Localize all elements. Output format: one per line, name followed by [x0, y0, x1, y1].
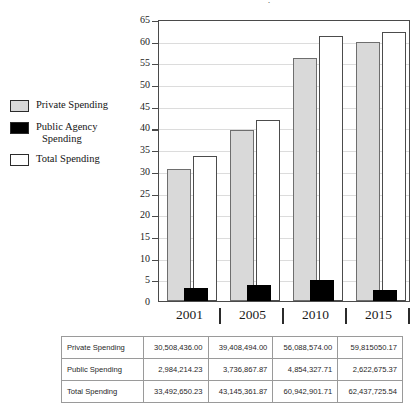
table-cell: 62,437,725.54 [338, 381, 403, 403]
table-row-header: Total Spending [62, 381, 144, 403]
y-tick-mark [152, 173, 159, 174]
y-tick-label: 25 [140, 188, 150, 199]
bar-private-spending [167, 169, 191, 301]
table-cell: 60,942,901.71 [273, 381, 338, 403]
bar-public-agency-spending [310, 280, 334, 301]
y-tick-label: 45 [140, 101, 150, 112]
bar-public-agency-spending [247, 285, 271, 301]
x-axis-label-2010: 2010 [284, 307, 347, 323]
x-axis-separator [408, 308, 410, 324]
x-axis-label-2001: 2001 [158, 307, 221, 323]
y-tick-label: 0 [145, 296, 150, 307]
bar-series-container [159, 21, 409, 301]
plot-wrapper: 05101520253035404550556065 2001200520102… [0, 0, 420, 330]
data-table: Private Spending30,508,436.0039,408,494.… [61, 336, 403, 403]
y-tick-label: 30 [140, 166, 150, 177]
table-cell: 43,145,361.87 [208, 381, 273, 403]
table-cell: 2,622,675.37 [338, 359, 403, 381]
table-cell: 33,492,650.23 [143, 381, 208, 403]
table-cell: 3,736,867.87 [208, 359, 273, 381]
bar-group [285, 21, 348, 301]
table-row: Private Spending30,508,436.0039,408,494.… [62, 337, 403, 359]
bar-total-spending [319, 36, 343, 301]
y-tick-mark [152, 281, 159, 282]
x-axis-label-2005: 2005 [221, 307, 284, 323]
x-axis-label-2015: 2015 [347, 307, 410, 323]
table-cell: 56,088,574.00 [273, 337, 338, 359]
x-axis-labels: 2001200520102015 [158, 305, 410, 330]
y-tick-mark [152, 43, 159, 44]
y-tick-label: 35 [140, 144, 150, 155]
plot-area: 05101520253035404550556065 [158, 20, 410, 302]
chart-page: · Private Spending Public Agency Spendin… [0, 0, 420, 415]
y-tick-mark [152, 64, 159, 65]
table-row: Total Spending33,492,650.2343,145,361.87… [62, 381, 403, 403]
bar-private-spending [293, 58, 317, 301]
bar-group [222, 21, 285, 301]
bar-group [348, 21, 411, 301]
y-tick-label: 15 [140, 231, 150, 242]
bar-total-spending [193, 156, 217, 301]
table-cell: 59,815050.17 [338, 337, 403, 359]
y-tick-label: 10 [140, 253, 150, 264]
y-tick-mark [152, 129, 159, 130]
y-tick-mark [152, 238, 159, 239]
bar-private-spending [356, 42, 380, 301]
table-cell: 39,408,494.00 [208, 337, 273, 359]
y-tick-mark [152, 260, 159, 261]
bar-public-agency-spending [184, 288, 208, 301]
y-tick-label: 5 [145, 274, 150, 285]
table-cell: 2,984,214.23 [143, 359, 208, 381]
y-tick-mark [152, 216, 159, 217]
bar-private-spending [230, 130, 254, 301]
y-tick-mark [152, 151, 159, 152]
bar-public-agency-spending [373, 290, 397, 301]
y-tick-label: 65 [140, 14, 150, 25]
bar-total-spending [382, 32, 406, 301]
table-row: Public Spending2,984,214.233,736,867.874… [62, 359, 403, 381]
table-cell: 4,854,327.71 [273, 359, 338, 381]
y-tick-mark [152, 108, 159, 109]
y-tick-label: 50 [140, 79, 150, 90]
y-tick-mark [152, 195, 159, 196]
table-cell: 30,508,436.00 [143, 337, 208, 359]
y-tick-label: 20 [140, 209, 150, 220]
bar-group [159, 21, 222, 301]
y-tick-mark [152, 21, 159, 22]
table-row-header: Public Spending [62, 359, 144, 381]
bar-total-spending [256, 120, 280, 301]
table-row-header: Private Spending [62, 337, 144, 359]
y-tick-label: 40 [140, 122, 150, 133]
y-tick-label: 60 [140, 36, 150, 47]
y-tick-label: 55 [140, 57, 150, 68]
y-tick-mark [152, 86, 159, 87]
